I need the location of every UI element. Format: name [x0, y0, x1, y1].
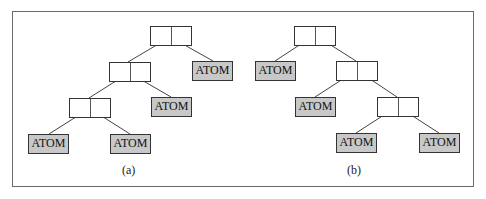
atom-node: ATOM — [28, 134, 69, 154]
caption-a: (a) — [122, 163, 135, 178]
cell-divider — [315, 27, 316, 45]
atom-node: ATOM — [151, 97, 192, 117]
cons-cell-a-level2 — [109, 62, 151, 82]
atom-node: ATOM — [419, 133, 460, 153]
atom-node: ATOM — [255, 61, 296, 81]
cell-divider — [130, 63, 131, 81]
cell-divider — [90, 99, 91, 117]
cons-cell-b-level3 — [377, 97, 419, 117]
atom-node: ATOM — [192, 61, 233, 81]
atom-node: ATOM — [295, 97, 336, 117]
cell-divider — [357, 62, 358, 80]
cell-divider — [398, 98, 399, 116]
atom-node: ATOM — [110, 134, 151, 154]
caption-b: (b) — [347, 163, 361, 178]
cons-cell-a-level3 — [69, 98, 111, 118]
cons-cell-b-level2 — [336, 61, 378, 81]
cons-cell-a-root — [150, 26, 192, 46]
cons-cell-b-root — [294, 26, 336, 46]
atom-node: ATOM — [336, 133, 377, 153]
cell-divider — [171, 27, 172, 45]
